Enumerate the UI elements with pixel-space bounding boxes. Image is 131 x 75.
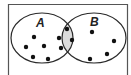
venn-diagram: A B (0, 0, 131, 75)
element-dot (70, 38, 74, 42)
element-dot (57, 36, 61, 40)
element-dot (105, 52, 109, 56)
element-dot (31, 55, 35, 59)
set-a-only-elements (24, 35, 50, 61)
element-dot (32, 35, 36, 39)
element-dot (46, 57, 50, 61)
element-dot (112, 39, 116, 43)
element-dot (42, 44, 46, 48)
element-dot (90, 30, 94, 34)
set-b-label: B (90, 15, 99, 29)
element-dot (59, 46, 63, 50)
element-dot (88, 57, 92, 61)
element-dot (65, 27, 69, 31)
set-b-only-elements (88, 30, 116, 61)
element-dot (24, 45, 28, 49)
set-a-label: A (35, 16, 45, 30)
